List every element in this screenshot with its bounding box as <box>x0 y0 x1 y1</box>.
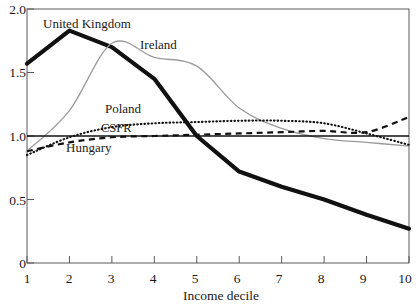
series-label-hungary: Hungary <box>66 141 112 154</box>
x-tick-label-2: 2 <box>57 272 81 286</box>
data-series-group <box>27 31 409 229</box>
y-tick-label-2-0: 2.0 <box>2 3 26 17</box>
series-label-csfr: CSFR <box>101 122 132 135</box>
x-tick-label-9: 9 <box>351 272 375 286</box>
y-tick-label-0-5: 0.5 <box>2 194 26 208</box>
x-tick-label-8: 8 <box>309 272 333 286</box>
x-tick-label-7: 7 <box>267 272 291 286</box>
x-tick-label-6: 6 <box>225 272 249 286</box>
y-tick-label-0: 0 <box>2 257 26 271</box>
x-tick-label-1: 1 <box>15 272 39 286</box>
series-label-poland: Poland <box>105 102 141 115</box>
x-tick-label-5: 5 <box>183 272 207 286</box>
chart-plot-area <box>0 0 418 308</box>
x-axis-title: Income decile <box>183 289 259 303</box>
y-tick-label-1-5: 1.5 <box>2 66 26 80</box>
x-tick-label-4: 4 <box>141 272 165 286</box>
x-tick-label-3: 3 <box>99 272 123 286</box>
series-label-ireland: Ireland <box>140 38 177 51</box>
y-tick-label-1-0: 1.0 <box>2 130 26 144</box>
chart-container: 2.0 1.5 1.0 0.5 0 1 2 3 4 5 6 7 8 9 10 I… <box>0 0 418 308</box>
x-tick-label-10: 10 <box>393 272 417 286</box>
series-label-united-kingdom: United Kingdom <box>43 17 131 30</box>
